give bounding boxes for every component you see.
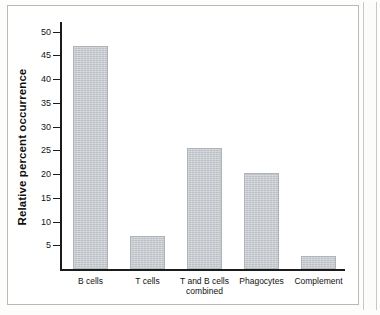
x-axis-category-label: T and B cells combined	[180, 276, 229, 296]
x-axis-line	[60, 269, 345, 271]
y-tick-label: 20	[41, 169, 51, 179]
y-tick-label: 45	[41, 50, 51, 60]
chart-page: Relative percent occurrence 510152025303…	[0, 0, 380, 315]
y-tick-mark	[53, 32, 60, 33]
y-tick-label: 40	[41, 74, 51, 84]
bar	[244, 173, 279, 269]
y-tick-mark	[53, 79, 60, 80]
x-axis-category-label: T cells	[135, 276, 159, 286]
bar-series	[62, 22, 345, 269]
y-tick-mark	[53, 198, 60, 199]
plot-area: 5101520253035404550 B cellsT cellsT and …	[60, 22, 345, 271]
y-tick-mark	[53, 150, 60, 151]
bar	[301, 256, 336, 269]
y-axis-title-text: Relative percent occurrence	[16, 68, 28, 225]
y-tick-label: 15	[41, 193, 51, 203]
y-tick-mark	[53, 55, 60, 56]
y-tick-label: 10	[41, 217, 51, 227]
y-tick-label: 35	[41, 98, 51, 108]
y-axis-title: Relative percent occurrence	[14, 22, 30, 271]
y-tick-mark	[53, 103, 60, 104]
bar	[130, 236, 165, 269]
y-tick-mark	[53, 174, 60, 175]
bar	[187, 148, 222, 269]
y-tick-label: 5	[46, 240, 51, 250]
y-tick-label: 25	[41, 145, 51, 155]
x-axis-category-label: B cells	[78, 276, 103, 286]
y-tick-mark	[53, 127, 60, 128]
page-edge-border	[363, 2, 377, 310]
y-tick-label: 50	[41, 27, 51, 37]
y-tick-mark	[53, 222, 60, 223]
y-tick-label: 30	[41, 122, 51, 132]
x-axis-category-label: Complement	[294, 276, 342, 286]
y-tick-mark	[53, 245, 60, 246]
x-axis-category-label: Phagocytes	[239, 276, 283, 286]
bar	[73, 46, 108, 269]
